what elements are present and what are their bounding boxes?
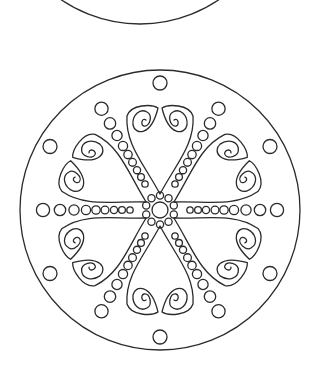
ray-5-dot-0 xyxy=(172,233,178,239)
ray-1-dot-3 xyxy=(184,158,192,166)
ray-1-dot-1 xyxy=(176,174,183,181)
center-ring-dot-5 xyxy=(143,211,150,218)
ray-4-dot-0 xyxy=(142,233,148,239)
ray-4-dot-3 xyxy=(129,254,137,262)
ray-2-dot-7 xyxy=(104,118,115,129)
ray-1-dot-0 xyxy=(172,181,178,187)
ray-2-dot-8 xyxy=(95,102,108,115)
ray-2-dot-1 xyxy=(138,174,145,181)
ray-0-dot-2 xyxy=(202,206,209,213)
ray-1-dot-7 xyxy=(204,118,215,129)
ray-3-dot-0 xyxy=(127,207,133,213)
ray-2-dot-5 xyxy=(118,141,127,150)
ray-2-dot-3 xyxy=(129,158,137,166)
ray-2-dot-0 xyxy=(142,181,148,187)
ray-4-dot-8 xyxy=(95,305,108,318)
ray-0-dot-4 xyxy=(220,206,228,214)
ray-3-dot-1 xyxy=(119,207,126,214)
ray-1-dot-8 xyxy=(212,102,225,115)
ray-2-dot-2 xyxy=(133,167,140,174)
ray-5-dot-3 xyxy=(184,254,192,262)
ray-0-dot-7 xyxy=(254,204,265,215)
ray-0-dot-1 xyxy=(195,207,202,214)
center-ring-dot-1 xyxy=(165,195,172,202)
ray-0-dot-0 xyxy=(187,207,193,213)
top-circle-outline xyxy=(0,0,280,24)
center-ring-dot-4 xyxy=(143,202,150,209)
ray-3-dot-4 xyxy=(92,206,100,214)
ray-5-dot-2 xyxy=(179,246,186,253)
ray-4-dot-4 xyxy=(124,261,132,269)
heart-petals xyxy=(59,106,261,315)
ray-1-dot-4 xyxy=(188,150,196,158)
heart-tip-dot-2 xyxy=(43,140,57,154)
heart-petal-2 xyxy=(59,134,146,202)
ray-3-dot-2 xyxy=(110,206,117,213)
ray-5-dot-1 xyxy=(176,240,183,247)
ray-1-dot-2 xyxy=(179,167,186,174)
ray-4-dot-2 xyxy=(133,246,140,253)
ray-3-dot-3 xyxy=(101,206,109,214)
ray-3-dot-7 xyxy=(54,204,65,215)
ray-1-dot-5 xyxy=(192,141,201,150)
heart-tip-dot-1 xyxy=(263,140,277,154)
ray-0-dot-5 xyxy=(229,205,238,214)
heart-petal-3 xyxy=(59,218,146,286)
center-rosette xyxy=(143,192,178,228)
heart-petal-5 xyxy=(174,218,261,286)
center-ring-dot-8 xyxy=(165,218,172,225)
ray-4-dot-6 xyxy=(112,279,122,289)
heart-tip-dot-4 xyxy=(153,330,167,344)
outer-circle xyxy=(20,70,300,350)
top-partial-circle xyxy=(0,0,280,24)
heart-petal-0 xyxy=(127,106,193,194)
ray-3-dot-5 xyxy=(81,205,90,214)
ray-0-dot-6 xyxy=(241,205,251,215)
mandala-artwork xyxy=(0,0,313,368)
ray-2-dot-4 xyxy=(124,150,132,158)
ray-2-dot-6 xyxy=(112,130,122,140)
center-circle xyxy=(152,202,168,218)
center-ring-dot-9 xyxy=(170,211,177,218)
ray-3-dot-6 xyxy=(69,205,79,215)
center-ring-dot-3 xyxy=(148,195,155,202)
heart-petal-4 xyxy=(127,226,193,314)
ray-0-dot-8 xyxy=(270,203,283,216)
heart-tip-dot-0 xyxy=(153,76,167,90)
ray-4-dot-5 xyxy=(118,269,127,278)
ray-1-dot-6 xyxy=(198,130,208,140)
outer-circle-outline xyxy=(20,70,300,350)
mandala-coloring-page xyxy=(0,0,313,368)
ray-4-dot-1 xyxy=(138,240,145,247)
ray-0-dot-3 xyxy=(211,206,219,214)
heart-tip-dots xyxy=(43,76,277,344)
dotted-rays xyxy=(36,102,283,318)
ray-5-dot-4 xyxy=(188,261,196,269)
ray-5-dot-7 xyxy=(204,291,215,302)
heart-tip-dot-3 xyxy=(43,267,57,281)
ray-4-dot-7 xyxy=(104,291,115,302)
center-ring-dot-6 xyxy=(148,218,155,225)
heart-petal-1 xyxy=(174,134,261,202)
mandala xyxy=(20,70,300,350)
heart-tip-dot-5 xyxy=(263,267,277,281)
ray-3-dot-8 xyxy=(36,203,49,216)
ray-5-dot-8 xyxy=(212,305,225,318)
ray-5-dot-6 xyxy=(198,279,208,289)
center-ring-dot-0 xyxy=(170,202,177,209)
ray-5-dot-5 xyxy=(192,269,201,278)
